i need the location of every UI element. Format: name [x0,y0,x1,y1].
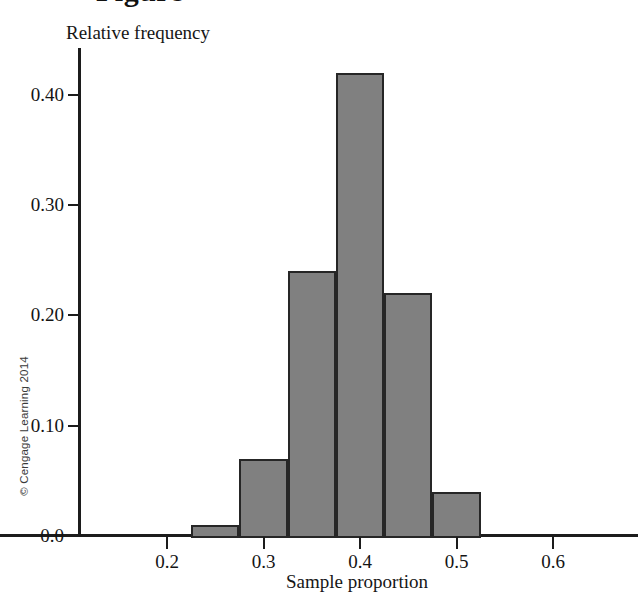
y-axis-tick [68,314,79,316]
x-axis-title-text: Sample proportion [286,571,428,592]
y-axis-tick [68,425,79,427]
x-axis-tick [166,537,168,549]
copyright-notice: © Cengage Learning 2014 [18,346,30,506]
histogram-bar [384,293,432,538]
y-axis-tick-label: 0.40 [4,85,64,104]
histogram-bar [191,525,239,538]
x-axis-tick [456,537,458,549]
x-axis-tick-label: 0.6 [523,551,583,572]
x-axis-tick-label: 0.3 [234,551,294,572]
x-axis-tick [552,537,554,549]
x-axis-tick-label: 0.5 [427,551,487,572]
y-axis-tick-label: 0.30 [4,195,64,214]
y-axis-line [78,48,81,537]
histogram-plot-area: 0.00.100.200.300.40 0.20.30.40.50.6 [0,0,638,596]
x-axis-tick [359,537,361,549]
x-axis-tick-label: 0.4 [330,551,390,572]
x-axis-tick-label: 0.2 [137,551,197,572]
x-axis-tick [263,537,265,549]
y-axis-tick [68,94,79,96]
histogram-bar [239,459,287,538]
y-axis-tick-label: 0.0 [4,526,64,545]
y-axis-tick-label: 0.20 [4,305,64,324]
histogram-bar [432,492,480,538]
y-axis-tick [68,204,79,206]
histogram-bar [336,73,384,538]
y-axis-tick [68,535,79,537]
histogram-bar [288,271,336,538]
y-axis-tick-label: 0.10 [4,416,64,435]
x-axis-title: Sample proportion [0,571,638,593]
